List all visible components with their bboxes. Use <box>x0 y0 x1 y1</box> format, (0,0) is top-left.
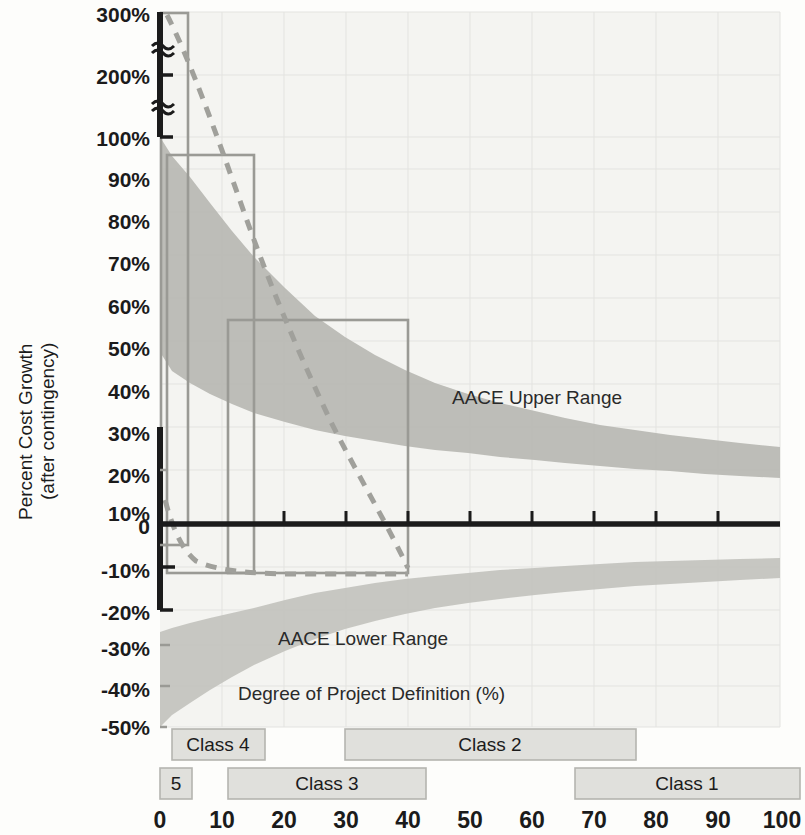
class-bar-class4[interactable]: Class 4 <box>172 729 265 760</box>
class-bars-row-1: Class 4 Class 2 <box>172 729 636 760</box>
y-tick-label: -40% <box>101 678 150 701</box>
x-tick-label: 100 <box>763 807 801 833</box>
y-tick-label: 100% <box>96 127 150 150</box>
x-tick-label: 40 <box>395 807 421 833</box>
class-bar-label: 5 <box>171 773 182 794</box>
class-bar-class1[interactable]: Class 1 <box>575 768 800 799</box>
class-bar-class5[interactable]: 5 <box>160 768 192 799</box>
y-tick-labels: 300% 200% 100% 90% 80% 70% 60% 50% 40% 3… <box>96 3 150 739</box>
y-tick-label: 60% <box>108 295 150 318</box>
x-tick-label: 90 <box>705 807 731 833</box>
y-tick-label: 30% <box>108 422 150 445</box>
y-tick-label: 300% <box>96 3 150 26</box>
x-tick-label: 60 <box>519 807 545 833</box>
y-tick-label: 80% <box>108 210 150 233</box>
x-tick-label: 0 <box>154 807 167 833</box>
aace-lower-range-label: AACE Lower Range <box>278 628 448 649</box>
class-bars-row-2: 5 Class 3 Class 1 <box>160 768 800 799</box>
y-tick-label: -10% <box>101 559 150 582</box>
y-tick-label: 70% <box>108 252 150 275</box>
y-axis-title-line2: (after contingency) <box>37 343 58 500</box>
x-tick-label: 20 <box>271 807 297 833</box>
aace-upper-range-label: AACE Upper Range <box>452 387 622 408</box>
x-tick-labels: 0 10 20 30 40 50 60 70 80 90 100 <box>154 807 802 833</box>
x-tick-label: 10 <box>209 807 235 833</box>
y-tick-label: -50% <box>101 716 150 739</box>
y-tick-label: 40% <box>108 380 150 403</box>
y-tick-label: -20% <box>101 601 150 624</box>
y-axis-title: Percent Cost Growth (after contingency) <box>15 343 58 520</box>
y-tick-label: -30% <box>101 637 150 660</box>
x-tick-label: 30 <box>333 807 359 833</box>
y-tick-label: 0 <box>138 515 150 538</box>
x-tick-label: 70 <box>581 807 607 833</box>
x-tick-label: 50 <box>457 807 483 833</box>
y-axis-title-line1: Percent Cost Growth <box>15 344 36 520</box>
class-bar-label: Class 4 <box>186 734 250 755</box>
y-tick-label: 200% <box>96 65 150 88</box>
y-tick-label: 20% <box>108 464 150 487</box>
class-bar-label: Class 3 <box>295 773 358 794</box>
cost-growth-chart: 300% 200% 100% 90% 80% 70% 60% 50% 40% 3… <box>0 0 805 835</box>
y-tick-label: 90% <box>108 168 150 191</box>
class-bar-label: Class 2 <box>458 734 521 755</box>
class-bar-class2[interactable]: Class 2 <box>345 729 636 760</box>
class-bar-class3[interactable]: Class 3 <box>228 768 426 799</box>
x-axis-title: Degree of Project Definition (%) <box>238 683 505 704</box>
y-tick-label: 50% <box>108 337 150 360</box>
class-bar-label: Class 1 <box>655 773 718 794</box>
x-tick-label: 80 <box>643 807 669 833</box>
chart-root: 300% 200% 100% 90% 80% 70% 60% 50% 40% 3… <box>0 0 805 835</box>
